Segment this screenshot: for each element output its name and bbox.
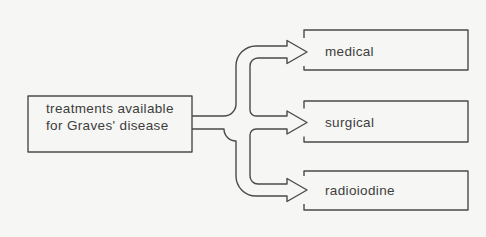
source-box-label: treatments available for Graves' disease xyxy=(46,101,174,134)
target-label-radioiodine: radioiodine xyxy=(325,183,395,200)
source-label-line2: for Graves' disease xyxy=(46,118,169,133)
flow-diagram: treatments available for Graves' disease… xyxy=(0,0,486,237)
source-label-line1: treatments available xyxy=(46,101,174,116)
target-label-surgical: surgical xyxy=(325,115,374,132)
target-label-medical: medical xyxy=(325,44,374,61)
branch-pipe-arrows xyxy=(192,41,307,202)
